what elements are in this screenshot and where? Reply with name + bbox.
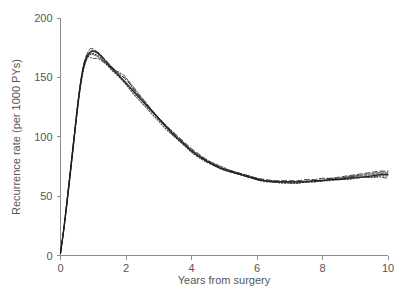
series-line-1 — [61, 51, 389, 253]
series-line-6 — [61, 50, 389, 253]
y-axis-title: Recurrence rate (per 1000 PYs) — [10, 59, 22, 215]
y-tick-label: 0 — [46, 250, 52, 262]
data-series-group — [61, 48, 389, 253]
x-axis-title: Years from surgery — [178, 274, 271, 286]
y-tick-label: 150 — [34, 71, 52, 83]
x-tick-label: 8 — [319, 262, 325, 274]
x-tick-label: 6 — [254, 262, 260, 274]
x-tick-label: 10 — [382, 262, 394, 274]
x-tick-label: 2 — [123, 262, 129, 274]
x-tick-label: 4 — [188, 262, 194, 274]
x-tick-label: 0 — [57, 262, 63, 274]
series-line-2 — [61, 48, 389, 253]
recurrence-rate-line-chart: 050100150200 0246810 Years from surgery … — [0, 0, 413, 296]
figure-container: 050100150200 0246810 Years from surgery … — [0, 0, 413, 296]
y-tick-label: 50 — [40, 190, 52, 202]
y-axis-ticks: 050100150200 — [34, 12, 60, 262]
series-line-5 — [61, 53, 389, 253]
series-line-3 — [61, 54, 389, 254]
series-line-4 — [61, 55, 389, 253]
axes — [61, 18, 389, 256]
y-tick-label: 200 — [34, 12, 52, 24]
y-tick-label: 100 — [34, 131, 52, 143]
x-axis-ticks: 0246810 — [57, 256, 394, 274]
